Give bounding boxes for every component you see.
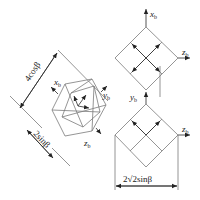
bottom-diamond-view: yb zb bbox=[115, 92, 190, 167]
short-diagonal-dimension: 2sinβ bbox=[27, 116, 70, 166]
top-z-label: zb bbox=[181, 47, 189, 58]
rotated-hexagon-view: xb yb zb bbox=[51, 77, 110, 149]
top-diamond-view: xb zb bbox=[115, 9, 190, 90]
bottom-y-label: yb bbox=[129, 92, 137, 103]
width-dimension-label: 2√2sinβ bbox=[123, 174, 152, 184]
bottom-z-label: zb bbox=[181, 124, 189, 135]
short-diagonal-label: 2sinβ bbox=[32, 129, 53, 150]
long-diagonal-label: 4cosβ bbox=[22, 60, 42, 83]
hex-z-label: zb bbox=[83, 138, 91, 149]
top-x-label: xb bbox=[149, 9, 157, 20]
width-dimension: 2√2sinβ bbox=[116, 174, 177, 186]
projection-diagram: xb zb yb zb 2√2sinβ bbox=[0, 0, 200, 200]
hex-x-label: xb bbox=[53, 77, 61, 88]
